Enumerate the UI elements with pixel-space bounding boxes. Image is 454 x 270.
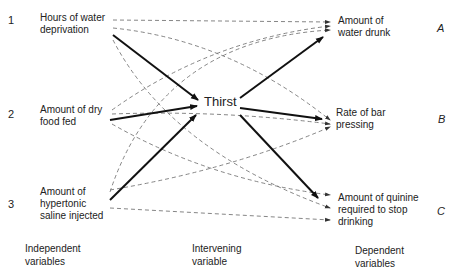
- dashed-1-to-A: [113, 20, 330, 22]
- independent-label-3: Amount of hypertonic saline injected: [40, 186, 103, 222]
- independent-number-1: 1: [8, 14, 14, 26]
- dashed-1-to-C: [113, 40, 330, 208]
- dependent-label-A: Amount of water drunk: [338, 15, 390, 39]
- independent-number-3: 3: [8, 198, 14, 210]
- solid-3-to-thirst: [110, 115, 196, 200]
- solid-thirst-to-A: [240, 37, 323, 98]
- dashed-3-to-C: [110, 208, 330, 220]
- independent-label-1: Hours of water deprivation: [40, 12, 105, 36]
- dependent-letter-B: B: [438, 113, 445, 125]
- dependent-letter-A: A: [437, 22, 444, 34]
- solid-1-to-thirst: [113, 35, 198, 100]
- independent-number-2: 2: [8, 108, 14, 120]
- dependent-letter-C: C: [437, 205, 445, 217]
- diagram-lines: [0, 0, 454, 270]
- solid-thirst-to-B: [240, 108, 322, 119]
- intervening-heading: Intervening variable: [192, 242, 241, 268]
- independent-label-2: Amount of dry food fed: [40, 104, 102, 128]
- dependent-heading: Dependent variables: [355, 244, 404, 270]
- dependent-label-B: Rate of bar pressing: [336, 107, 385, 131]
- solid-thirst-to-C: [240, 115, 318, 198]
- independent-heading: Independent variables: [25, 242, 81, 268]
- dashed-3-to-B: [110, 127, 330, 190]
- dependent-label-C: Amount of quinine required to stop drink…: [338, 192, 419, 228]
- thirst-node: Thirst: [204, 96, 237, 108]
- dashed-2-to-C: [112, 124, 330, 195]
